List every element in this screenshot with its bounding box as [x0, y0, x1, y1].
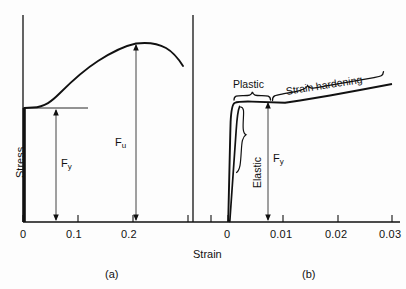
panel-b-tick-label-3: 0.03: [379, 228, 401, 240]
panel-a-fy-symbol: F: [61, 157, 68, 169]
panel-a-tick-marks: [23, 215, 188, 222]
panel-a-tick-label-0: 0: [20, 228, 26, 240]
panel-a-fy-label: Fy: [61, 157, 72, 169]
strain-axis-title: Strain: [193, 248, 222, 260]
panel-a-fu-dimension-arrow: [133, 44, 139, 221]
panel-b-fy-label: Fy: [273, 152, 284, 164]
stress-axis-title: Stress: [14, 147, 26, 178]
panel-b-plastic-brace: [234, 92, 271, 100]
panel-b-tick-label-1: 0.01: [270, 228, 292, 240]
panel-b-tick-marks: [211, 215, 392, 222]
panel-b-fy-dimension-arrow: [265, 102, 271, 221]
panel-b-plastic-label: Plastic: [233, 78, 264, 90]
panel-a-stress-strain-curve: [24, 43, 183, 108]
panel-a-tick-label-1: 0.1: [66, 228, 82, 240]
panel-b-fy-symbol: F: [273, 152, 280, 164]
panel-a-fu-subscript: u: [122, 141, 126, 150]
panel-b-tick-label-2: 0.02: [325, 228, 347, 240]
panel-a-caption: (a): [105, 268, 118, 280]
panel-b-caption: (b): [302, 268, 315, 280]
panel-a-fu-label: Fu: [115, 136, 126, 148]
figure-canvas: [0, 0, 406, 289]
panel-b-fy-subscript: y: [280, 157, 284, 166]
stress-strain-figure: Stress Strain 0 0.1 0.2 0 0.01 0.02 0.03…: [0, 0, 406, 289]
panel-a-fy-subscript: y: [68, 162, 72, 171]
panel-b-tick-label-0: 0: [224, 228, 230, 240]
panel-a-tick-label-2: 0.2: [121, 228, 137, 240]
panel-b-stress-strain-curve: [228, 84, 392, 222]
panel-a-fu-symbol: F: [115, 136, 122, 148]
panel-b-elastic-label: Elastic: [251, 157, 263, 188]
panel-a-fy-dimension-arrow: [53, 109, 59, 221]
